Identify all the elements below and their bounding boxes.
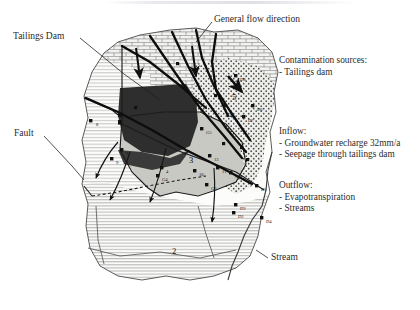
- p-G3: G3: [211, 186, 217, 191]
- p-D6: D6: [257, 107, 263, 112]
- p-10: 10: [199, 172, 204, 177]
- region-3: 3: [189, 155, 193, 165]
- hydrogeological-site-map: General flow direction Tailings Dam Faul…: [0, 0, 420, 310]
- p-G5: G5: [206, 130, 212, 135]
- p-4: 4: [166, 169, 168, 174]
- p-9: 9: [116, 160, 118, 165]
- p-D7: D7: [248, 118, 254, 123]
- legend-item: - Streams: [279, 203, 355, 215]
- region-5: 5: [232, 92, 236, 102]
- p-8: 8: [96, 122, 98, 127]
- legend-heading: Inflow:: [279, 126, 400, 138]
- annotation-tailings-dam: Tailings Dam: [13, 31, 64, 41]
- legend-heading: Outflow:: [279, 180, 355, 192]
- region-2: 2: [172, 246, 176, 256]
- p-G4: G4: [162, 177, 168, 182]
- region-4: 4: [229, 110, 233, 120]
- annotation-fault: Fault: [14, 128, 34, 138]
- legend-inflow: Inflow: - Groundwater recharge 32mm/a - …: [279, 126, 400, 161]
- p-D2: D2: [238, 214, 244, 219]
- legend-item: - Tailings dam: [279, 67, 367, 79]
- annotation-stream: Stream: [271, 252, 298, 262]
- legend-item: - Evapotranspiration: [279, 192, 355, 204]
- legend-outflow: Outflow: - Evapotranspiration - Streams: [279, 180, 355, 215]
- p-11: 11: [222, 169, 226, 174]
- p-D8: D8: [240, 77, 246, 82]
- p-7: 7: [126, 151, 128, 156]
- legend-contamination-sources: Contamination sources: - Tailings dam: [279, 55, 367, 78]
- legend-item: - Groundwater recharge 32mm/a: [279, 138, 400, 150]
- p-D4: D4: [266, 219, 272, 224]
- p-13: 13: [214, 157, 219, 162]
- annotation-general-flow-direction: General flow direction: [214, 14, 300, 24]
- legend-heading: Contamination sources:: [279, 55, 367, 67]
- p-D3: D3: [240, 206, 246, 211]
- legend-item: - Seepage through tailings dam: [279, 149, 400, 161]
- leader-fault: [44, 136, 84, 180]
- p-D5: D5: [261, 187, 267, 192]
- p-G2: G2: [235, 174, 241, 179]
- leader-stream: [256, 250, 268, 258]
